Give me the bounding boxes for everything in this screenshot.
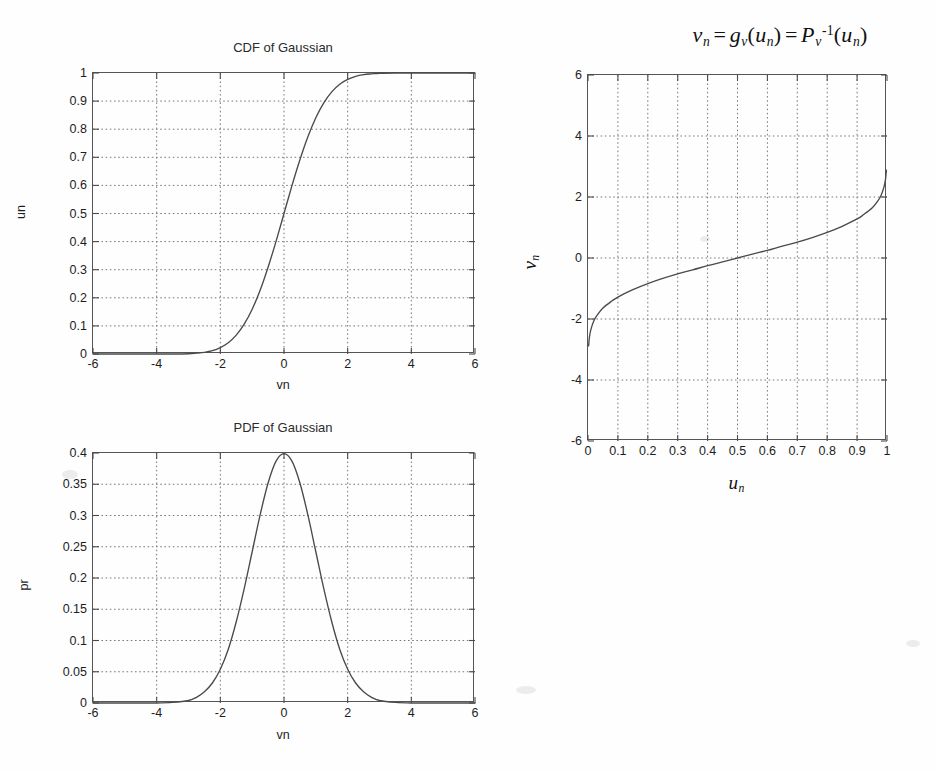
title-g-subscript: v xyxy=(741,34,748,49)
y-tick-label: 0.8 xyxy=(70,122,87,136)
inverse-cdf-plot-title: vn=gv(un)=Pv-1(un) xyxy=(587,22,936,50)
pdf-ylabel: pr xyxy=(17,579,31,590)
pdf-xlabel: vn xyxy=(92,728,474,742)
scan-speckle xyxy=(516,686,536,694)
x-tick-label: -4 xyxy=(151,706,162,720)
cdf-xlabel: vn xyxy=(92,378,474,392)
y-tick-label: 0.2 xyxy=(70,291,87,305)
y-tick-label: 1 xyxy=(80,66,87,80)
x-tick-label: 0 xyxy=(585,444,592,458)
x-tick-label: 4 xyxy=(408,357,415,371)
x-tick-label: 0.5 xyxy=(729,444,746,458)
y-tick-label: 0 xyxy=(80,347,87,361)
y-tick-label: 0.35 xyxy=(63,477,87,491)
inverse-cdf-axes-box: 00.10.20.30.40.50.60.70.80.91-6-4-20246 xyxy=(587,74,886,440)
title-P-superscript: -1 xyxy=(821,23,833,38)
x-tick-label: 0.2 xyxy=(639,444,656,458)
x-tick-label: 0.7 xyxy=(789,444,806,458)
y-tick-label: 0.1 xyxy=(70,634,87,648)
x-tick-label: 0.8 xyxy=(818,444,835,458)
x-tick-label: 0.3 xyxy=(669,444,686,458)
y-tick-label: -2 xyxy=(571,312,582,326)
x-tick-label: 6 xyxy=(472,357,479,371)
x-tick-label: 2 xyxy=(344,357,351,371)
x-tick-label: 6 xyxy=(472,706,479,720)
y-tick-label: 2 xyxy=(575,190,582,204)
inverse-cdf-ylabel: vn xyxy=(519,255,543,270)
title-v: v xyxy=(693,22,703,47)
y-tick-label: 0.1 xyxy=(70,319,87,333)
scan-speckle xyxy=(906,640,920,647)
x-tick-label: 0.9 xyxy=(848,444,865,458)
xlabel-base: u xyxy=(729,472,739,493)
y-tick-label: 0.6 xyxy=(70,178,87,192)
x-tick-label: -6 xyxy=(87,357,98,371)
y-tick-label: 0.05 xyxy=(63,665,87,679)
y-tick-label: 0.4 xyxy=(70,235,87,249)
xlabel-subscript: n xyxy=(738,482,744,495)
x-tick-label: 1 xyxy=(884,444,891,458)
pdf-axes-box: -6-4-2024600.050.10.150.20.250.30.350.4 xyxy=(92,452,474,702)
y-tick-label: 0.2 xyxy=(70,571,87,585)
x-tick-label: 4 xyxy=(408,706,415,720)
title-lparen-1: ( xyxy=(748,22,756,47)
y-tick-label: 6 xyxy=(575,68,582,82)
y-tick-label: 0.9 xyxy=(70,94,87,108)
x-tick-label: -2 xyxy=(215,357,226,371)
figure-cdf-of-gaussian: CDF of Gaussian -6-4-2024600.10.20.30.40… xyxy=(0,0,500,400)
title-g: g xyxy=(730,22,741,47)
y-tick-label: 0.25 xyxy=(63,540,87,554)
x-tick-label: -4 xyxy=(151,357,162,371)
title-u-1: u xyxy=(755,22,766,47)
x-tick-label: 0.1 xyxy=(609,444,626,458)
ylabel-subscript: n xyxy=(530,255,543,261)
title-equals-2: = xyxy=(781,22,801,47)
x-tick-label: 0.6 xyxy=(759,444,776,458)
title-equals-1: = xyxy=(710,22,730,47)
title-u-subscript-1: n xyxy=(766,34,774,49)
x-tick-label: 0.4 xyxy=(699,444,716,458)
x-tick-label: 0 xyxy=(281,357,288,371)
pdf-plot-title: PDF of Gaussian xyxy=(92,420,474,435)
y-tick-label: 0.5 xyxy=(70,207,87,221)
y-tick-label: 4 xyxy=(575,129,582,143)
ylabel-base: v xyxy=(519,261,540,269)
y-tick-label: 0 xyxy=(80,696,87,710)
cdf-plot-title: CDF of Gaussian xyxy=(92,40,474,55)
title-u-2: u xyxy=(841,22,852,47)
y-tick-label: -4 xyxy=(571,373,582,387)
inverse-cdf-xlabel: un xyxy=(587,472,886,496)
y-tick-label: 0.7 xyxy=(70,150,87,164)
y-tick-label: 0 xyxy=(575,251,582,265)
y-tick-label: 0.4 xyxy=(70,446,87,460)
title-v-subscript: n xyxy=(703,34,711,49)
y-tick-label: 0.3 xyxy=(70,509,87,523)
scanned-page: CDF of Gaussian -6-4-2024600.10.20.30.40… xyxy=(0,0,936,772)
y-tick-label: 0.15 xyxy=(63,602,87,616)
figure-inverse-cdf: vn=gv(un)=Pv-1(un) 00.10.20.30.40.50.60.… xyxy=(500,0,936,520)
inverse-cdf-plot-canvas xyxy=(588,75,887,441)
cdf-plot-canvas xyxy=(93,73,475,354)
y-tick-label: -6 xyxy=(571,434,582,448)
title-P: P xyxy=(801,22,815,47)
x-tick-label: 0 xyxy=(281,706,288,720)
cdf-ylabel: un xyxy=(14,205,28,219)
pdf-plot-canvas xyxy=(93,453,475,703)
figure-pdf-of-gaussian: PDF of Gaussian -6-4-2024600.050.10.150.… xyxy=(0,400,500,772)
y-tick-label: 0.3 xyxy=(70,263,87,277)
x-tick-label: 2 xyxy=(344,706,351,720)
title-u-subscript-2: n xyxy=(852,34,860,49)
x-tick-label: -6 xyxy=(87,706,98,720)
title-rparen-2: ) xyxy=(860,22,868,47)
cdf-axes-box: -6-4-2024600.10.20.30.40.50.60.70.80.91 xyxy=(92,72,474,353)
x-tick-label: -2 xyxy=(215,706,226,720)
